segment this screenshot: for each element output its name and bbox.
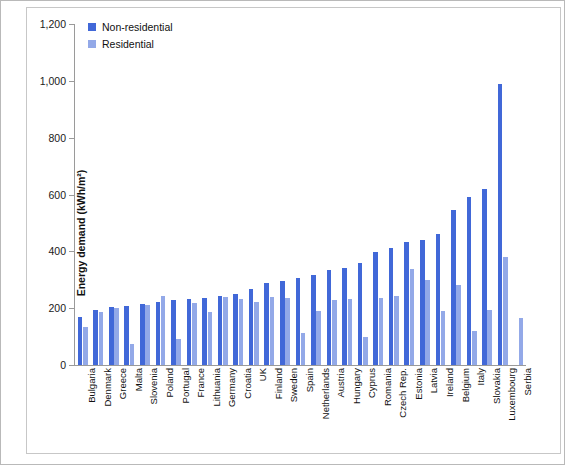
x-tick-label: Serbia	[522, 368, 533, 395]
bar-residential[interactable]	[425, 280, 430, 365]
bar-non-residential[interactable]	[373, 252, 378, 365]
bar-non-residential[interactable]	[171, 300, 176, 365]
bar-residential[interactable]	[254, 302, 259, 365]
bar-group	[153, 24, 169, 365]
bar-non-residential[interactable]	[280, 281, 285, 365]
bar-group	[355, 24, 371, 365]
x-tick-label: Germany	[226, 368, 237, 407]
y-tick-label-1000: 1,000	[40, 75, 66, 87]
bar-residential[interactable]	[192, 303, 197, 365]
x-tick-label: UK	[257, 368, 268, 381]
bar-residential[interactable]	[270, 297, 275, 365]
bar-group	[417, 24, 433, 365]
bar-non-residential[interactable]	[311, 275, 316, 365]
bar-non-residential[interactable]	[93, 310, 98, 365]
bar-residential[interactable]	[332, 300, 337, 365]
bar-group	[231, 24, 247, 365]
bar-residential[interactable]	[379, 298, 384, 365]
bar-residential[interactable]	[394, 296, 399, 365]
bar-non-residential[interactable]	[404, 242, 409, 365]
bar-non-residential[interactable]	[187, 299, 192, 365]
bar-group	[277, 24, 293, 365]
bar-residential[interactable]	[99, 312, 104, 365]
x-tick-label: Greece	[117, 368, 128, 399]
x-tick-label: Bulgaria	[86, 368, 97, 403]
x-tick-label: Czech Rep.	[397, 368, 408, 418]
bar-non-residential[interactable]	[233, 294, 238, 365]
bar-group	[479, 24, 495, 365]
bar-group	[293, 24, 309, 365]
x-tick-label: Malta	[133, 368, 144, 391]
bar-non-residential[interactable]	[296, 278, 301, 365]
bar-non-residential[interactable]	[78, 317, 83, 365]
bar-residential[interactable]	[441, 311, 446, 365]
bar-residential[interactable]	[285, 298, 290, 365]
x-tick-label: Netherlands	[320, 368, 331, 419]
y-tick-label-600: 600	[48, 189, 66, 201]
bar-residential[interactable]	[503, 257, 508, 365]
bar-non-residential[interactable]	[467, 197, 472, 365]
x-tick-label: Belgium	[460, 368, 471, 402]
bar-non-residential[interactable]	[249, 289, 254, 365]
bar-non-residential[interactable]	[342, 268, 347, 365]
bar-group	[308, 24, 324, 365]
bar-non-residential[interactable]	[218, 296, 223, 365]
x-tick-label: Cyprus	[366, 368, 377, 398]
bar-group	[433, 24, 449, 365]
bar-non-residential[interactable]	[264, 283, 269, 365]
bar-residential[interactable]	[316, 311, 321, 365]
bar-group	[122, 24, 138, 365]
bar-non-residential[interactable]	[202, 298, 207, 365]
bar-non-residential[interactable]	[156, 302, 161, 365]
bar-residential[interactable]	[114, 308, 119, 365]
x-tick-label: Slovenia	[148, 368, 159, 404]
x-tick-label: Ireland	[444, 368, 455, 397]
bar-non-residential[interactable]	[451, 210, 456, 365]
bar-group	[246, 24, 262, 365]
bar-non-residential[interactable]	[498, 84, 503, 365]
bar-residential[interactable]	[487, 310, 492, 365]
y-tick-400: 400	[69, 251, 74, 252]
bar-group	[75, 24, 91, 365]
bar-residential[interactable]	[348, 299, 353, 365]
bar-residential[interactable]	[145, 305, 150, 365]
bar-residential[interactable]	[410, 269, 415, 365]
y-tick-800: 800	[69, 138, 74, 139]
bar-non-residential[interactable]	[389, 248, 394, 365]
bar-non-residential[interactable]	[420, 240, 425, 365]
bar-non-residential[interactable]	[124, 306, 129, 365]
x-tick-label: Romania	[382, 368, 393, 406]
bar-series-container	[75, 24, 526, 365]
bar-residential[interactable]	[130, 344, 135, 365]
x-tick-label: Hungary	[351, 368, 362, 404]
x-tick-label: Luxembourg	[506, 368, 517, 421]
bar-group	[495, 24, 511, 365]
bar-non-residential[interactable]	[436, 234, 441, 365]
bar-non-residential[interactable]	[482, 189, 487, 365]
x-tick-label: Austria	[335, 368, 346, 398]
bar-residential[interactable]	[239, 299, 244, 365]
bar-residential[interactable]	[301, 333, 306, 365]
bar-non-residential[interactable]	[327, 270, 332, 365]
bar-residential[interactable]	[223, 297, 228, 365]
bar-group	[339, 24, 355, 365]
bar-residential[interactable]	[161, 296, 166, 365]
x-tick-label: Finland	[273, 368, 284, 399]
bar-group	[510, 24, 526, 365]
bar-group	[262, 24, 278, 365]
bar-group	[106, 24, 122, 365]
bar-residential[interactable]	[176, 339, 181, 365]
y-tick-0: 0	[69, 365, 74, 366]
bar-non-residential[interactable]	[109, 307, 114, 365]
bar-non-residential[interactable]	[358, 263, 363, 365]
bar-residential[interactable]	[456, 285, 461, 365]
bar-residential[interactable]	[472, 331, 477, 365]
bar-group	[448, 24, 464, 365]
bar-residential[interactable]	[83, 327, 88, 365]
bar-residential[interactable]	[363, 337, 368, 365]
bar-non-residential[interactable]	[140, 304, 145, 365]
bar-group	[402, 24, 418, 365]
bar-residential[interactable]	[208, 312, 213, 365]
bar-residential[interactable]	[519, 318, 524, 365]
chart-figure: Energy demand (kWh/m²) Non-residential R…	[0, 0, 566, 466]
